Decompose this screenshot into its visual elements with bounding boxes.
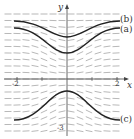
slope-segment [59,85,66,86]
slope-segment [59,65,66,66]
slope-segment [77,58,83,61]
slope-segment [77,117,83,120]
slope-segment [23,53,30,54]
slope-segment [32,91,39,92]
slope-segment [32,46,39,48]
slope-segment [95,98,102,100]
slope-segment [41,52,47,55]
slope-segment [86,130,93,131]
slope-segment [104,59,111,60]
slope-segment [59,104,66,106]
slope-segment [59,33,66,34]
slope-segment [95,104,102,106]
slope-segment [104,66,111,67]
slope-segment [23,33,30,34]
slope-segment [23,105,30,106]
slope-segment [50,39,56,42]
slope-segment [95,45,102,47]
slope-segment [32,104,39,106]
slope-segment [86,32,93,34]
slope-segment [23,66,30,67]
slope-segment [50,85,57,86]
slope-segment [68,124,75,125]
slope-segment [32,27,39,28]
slope-segment [59,59,66,60]
x-tick-label-pos2: 2 [115,81,119,88]
slope-segment [23,111,30,112]
slope-segment [104,33,111,34]
slope-segment [41,130,48,131]
slope-segment [104,92,111,93]
slope-segment [77,52,83,55]
slope-segment [86,91,93,93]
slope-segment [77,123,84,125]
slope-segment [77,110,83,113]
slope-segment [104,104,111,105]
slope-segment [32,52,39,54]
slope-segment [41,65,48,67]
x-tick-label-neg2: -2 [12,81,19,88]
slope-segment [32,117,39,119]
slope-segment [59,98,66,99]
slope-segment [104,111,111,112]
curve-label-a: (a) [120,25,132,34]
slope-segment [68,98,75,99]
slope-segment [104,124,111,125]
slope-segment [41,110,47,113]
slope-segment [95,85,102,86]
slope-segment [95,91,102,92]
slope-segment [59,72,66,73]
slope-segment [77,85,84,86]
slope-segment [95,52,102,54]
slope-segment [41,58,47,61]
slope-segment [32,39,39,41]
slope-segment [23,59,30,60]
slope-segment [68,46,75,47]
slope-segment [50,110,56,113]
y-axis-arrow-icon [65,4,69,9]
slope-segment [23,46,30,47]
slope-segment [23,92,30,93]
slope-segment [59,27,66,28]
slope-segment [86,117,92,120]
slope-segment [104,52,111,53]
slope-segment [41,85,48,86]
slope-segment [95,131,102,132]
slope-segment [68,59,75,60]
slope-segment [68,104,75,105]
x-axis-label: x [127,81,132,90]
slope-segment [68,131,75,132]
curve-label-c: (c) [120,115,132,124]
slope-segment [41,45,47,48]
slope-segment [23,98,30,99]
slope-segment [32,72,39,73]
slope-segment [32,85,39,86]
slope-segment [77,104,83,107]
slope-segment [86,65,93,67]
slope-segment [86,51,92,54]
slope-segment [95,124,102,126]
slope-segment [104,98,111,99]
slope-segment [77,39,83,42]
slope-segment [95,59,102,61]
slope-segment [95,117,102,119]
y-axis-label: y [58,3,63,12]
slope-segment [104,46,111,47]
slope-segment [86,72,93,73]
slope-segment [86,123,93,125]
slope-segment [50,58,56,61]
slope-segment [59,111,66,113]
slope-segment [50,130,57,131]
slope-segment [95,39,102,41]
slope-segment [41,91,48,93]
slope-segment [41,32,48,34]
slope-segment [32,59,39,61]
slope-segment [59,39,66,40]
slope-segment [68,39,75,40]
slope-segment [95,72,102,73]
slope-segment [32,124,39,125]
slope-segment [59,117,66,118]
slope-segment [104,40,111,41]
slope-segment [23,40,30,41]
slope-segment [68,66,75,67]
